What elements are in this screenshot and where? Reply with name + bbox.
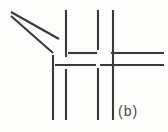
figure-caption-label: (b) bbox=[118, 104, 138, 118]
diagonal-stroke-group bbox=[11, 12, 59, 53]
line-drawing-canvas bbox=[0, 0, 168, 132]
stroke-diag-lower bbox=[11, 16, 53, 53]
figure-container: (b) bbox=[0, 0, 168, 132]
horizontal-stroke-group bbox=[55, 53, 164, 65]
stroke-diag-upper bbox=[11, 12, 59, 39]
